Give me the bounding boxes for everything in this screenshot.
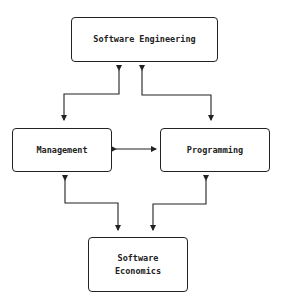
node-programming: Programming [160,128,270,172]
edge-pg-ec [153,180,206,230]
edge-mg-ec [65,180,118,230]
node-label: Management [36,144,87,156]
node-label-line1: Software [118,252,159,264]
edge-se-pg [142,70,211,120]
node-label: Software Engineering [93,33,195,45]
node-software-economics: Software Economics [88,237,188,292]
edge-se-mg [64,70,119,120]
node-management: Management [12,128,112,172]
node-software-engineering: Software Engineering [71,17,218,62]
node-label: Programming [187,144,243,156]
node-label-line2: Economics [115,265,161,277]
